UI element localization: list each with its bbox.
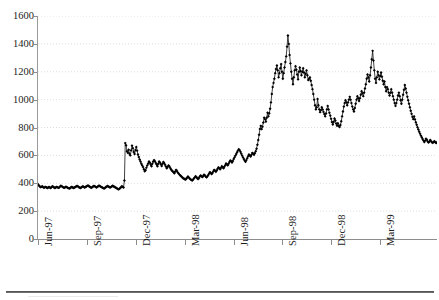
data-point-marker bbox=[302, 67, 305, 70]
data-point-marker bbox=[131, 144, 134, 147]
series-plot bbox=[38, 16, 437, 239]
series-markers-price bbox=[38, 34, 437, 191]
y-tick-label: 600 bbox=[0, 150, 34, 160]
data-point-marker bbox=[366, 73, 369, 76]
y-tick-label: 0 bbox=[0, 234, 34, 244]
data-point-marker bbox=[286, 34, 289, 37]
data-point-marker bbox=[408, 106, 411, 109]
data-point-marker bbox=[397, 91, 400, 94]
x-tick-label: Mar-99 bbox=[385, 214, 396, 246]
data-point-marker bbox=[311, 88, 314, 91]
data-point-marker bbox=[369, 74, 372, 77]
data-point-marker bbox=[358, 100, 361, 103]
data-point-marker bbox=[394, 104, 397, 107]
data-point-marker bbox=[137, 156, 140, 159]
data-point-marker bbox=[392, 98, 395, 101]
data-point-marker bbox=[409, 109, 412, 112]
data-point-marker bbox=[269, 107, 272, 110]
y-tick-mark bbox=[33, 16, 37, 17]
data-point-marker bbox=[280, 63, 283, 66]
x-tick-mark bbox=[185, 240, 186, 245]
y-axis-labels: 16001400120010008006004002000 bbox=[0, 0, 34, 300]
data-point-marker bbox=[400, 102, 403, 105]
data-point-marker bbox=[264, 120, 267, 123]
data-point-marker bbox=[364, 83, 367, 86]
data-point-marker bbox=[342, 105, 345, 108]
gridlines bbox=[38, 16, 437, 211]
data-point-marker bbox=[340, 120, 343, 123]
data-point-marker bbox=[388, 94, 391, 97]
data-point-marker bbox=[405, 91, 408, 94]
plot-area bbox=[38, 16, 437, 239]
chart-title bbox=[0, 0, 439, 2]
y-tick-label: 1600 bbox=[0, 11, 34, 21]
page-bottom-rule bbox=[6, 291, 434, 293]
data-point-marker bbox=[373, 69, 376, 72]
data-point-marker bbox=[270, 93, 273, 96]
data-point-marker bbox=[326, 104, 329, 107]
data-point-marker bbox=[281, 77, 284, 80]
data-point-marker bbox=[270, 101, 273, 104]
data-point-marker bbox=[414, 121, 417, 124]
data-point-marker bbox=[342, 110, 345, 113]
data-point-marker bbox=[300, 74, 303, 77]
x-tick-mark bbox=[282, 240, 283, 245]
data-point-marker bbox=[351, 105, 354, 108]
data-point-marker bbox=[290, 70, 293, 73]
x-tick-label: Jun-97 bbox=[43, 217, 54, 246]
y-tick-mark bbox=[33, 44, 37, 45]
data-point-marker bbox=[283, 66, 286, 69]
data-point-marker bbox=[369, 66, 372, 69]
data-point-marker bbox=[354, 102, 357, 105]
data-point-marker bbox=[331, 123, 334, 126]
data-point-marker bbox=[391, 91, 394, 94]
data-point-marker bbox=[341, 115, 344, 118]
data-point-marker bbox=[286, 45, 289, 48]
x-tick-label: Mar-98 bbox=[190, 214, 201, 246]
data-point-marker bbox=[123, 179, 126, 182]
data-point-marker bbox=[378, 78, 381, 81]
data-point-marker bbox=[364, 87, 367, 90]
data-point-marker bbox=[350, 102, 353, 105]
data-point-marker bbox=[406, 95, 409, 98]
x-tick-mark bbox=[87, 240, 88, 245]
data-point-marker bbox=[288, 54, 291, 57]
x-tick-mark bbox=[136, 240, 137, 245]
x-tick-label: Dec-97 bbox=[141, 214, 152, 246]
x-tick-mark bbox=[38, 240, 39, 245]
data-point-marker bbox=[255, 147, 258, 150]
y-tick-label: 200 bbox=[0, 206, 34, 216]
y-tick-label: 1400 bbox=[0, 39, 34, 49]
x-tick-label: Sep-98 bbox=[287, 216, 298, 246]
data-point-marker bbox=[258, 133, 261, 136]
data-point-marker bbox=[137, 153, 140, 156]
data-point-marker bbox=[130, 149, 133, 152]
data-point-marker bbox=[257, 139, 260, 142]
y-tick-mark bbox=[33, 100, 37, 101]
data-point-marker bbox=[368, 80, 371, 83]
data-point-marker bbox=[135, 146, 138, 149]
x-tick-mark bbox=[380, 240, 381, 245]
y-tick-mark bbox=[33, 211, 37, 212]
data-point-marker bbox=[314, 104, 317, 107]
data-point-marker bbox=[305, 69, 308, 72]
data-point-marker bbox=[285, 55, 288, 58]
data-point-marker bbox=[392, 95, 395, 98]
data-point-marker bbox=[410, 112, 413, 115]
data-point-marker bbox=[371, 49, 374, 52]
x-tick-mark bbox=[331, 240, 332, 245]
data-point-marker bbox=[415, 123, 418, 126]
y-tick-label: 1200 bbox=[0, 67, 34, 77]
data-point-marker bbox=[292, 83, 295, 86]
data-point-marker bbox=[346, 104, 349, 107]
data-point-marker bbox=[262, 121, 265, 124]
data-point-marker bbox=[277, 76, 280, 79]
y-tick-label: 800 bbox=[0, 123, 34, 133]
data-point-marker bbox=[329, 114, 332, 117]
data-point-marker bbox=[310, 84, 313, 87]
data-point-marker bbox=[327, 108, 330, 111]
data-point-marker bbox=[403, 84, 406, 87]
data-point-marker bbox=[362, 95, 365, 98]
data-point-marker bbox=[385, 90, 388, 93]
x-tick-label: Jun-98 bbox=[239, 217, 250, 246]
